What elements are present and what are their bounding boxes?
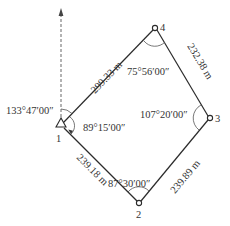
angle-station-4-label: 75°56′00″ — [127, 66, 169, 77]
edge-2-1 — [64, 128, 137, 201]
station-1-triangle-icon — [56, 118, 66, 127]
length-3-2: 239.89 m — [168, 158, 202, 195]
station-1-label: 1 — [56, 133, 61, 144]
bearing-arc-1 — [61, 109, 72, 114]
interior-arc-4 — [144, 41, 165, 46]
bearing-1-4-label: 133°47′00″ — [6, 105, 54, 116]
station-2-label: 2 — [136, 209, 141, 220]
interior-arc-3 — [193, 105, 201, 130]
station-3-label: 3 — [215, 113, 220, 124]
traverse-diagram: 1 2 3 4 299.33 m 232.38 m 239.89 m 239.1… — [0, 0, 230, 226]
angle-station-2-label: 87°30′00″ — [108, 178, 150, 189]
station-4-circle-icon — [152, 25, 157, 30]
station-2-circle-icon — [136, 200, 141, 205]
station-3-circle-icon — [207, 115, 212, 120]
north-arrowhead-icon — [59, 8, 64, 16]
angle-station-3-label: 107°20′00″ — [140, 109, 188, 120]
length-1-4: 299.33 m — [89, 59, 124, 95]
station-4-label: 4 — [160, 22, 166, 33]
angle-station-1-label: 89°15′00″ — [83, 122, 125, 133]
north-arrow — [59, 8, 64, 122]
length-4-3: 232.38 m — [185, 41, 215, 81]
